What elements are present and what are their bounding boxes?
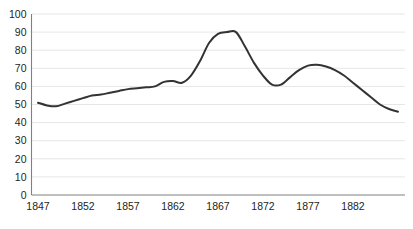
series-line [38,31,398,112]
x-tick-label: 1882 [341,200,365,212]
y-tick-label: 0 [21,189,27,201]
x-tick-label: 1852 [71,200,95,212]
y-axis-tick-labels: 0102030405060708090100 [9,8,27,201]
chart-canvas: 0102030405060708090100 18471852185718621… [0,0,413,229]
y-tick-label: 80 [15,44,27,56]
x-tick-label: 1877 [296,200,320,212]
y-tick-label: 10 [15,171,27,183]
y-tick-label: 20 [15,153,27,165]
y-tick-label: 100 [9,8,27,20]
x-tick-label: 1847 [26,200,50,212]
y-tick-label: 70 [15,62,27,74]
y-tick-label: 30 [15,134,27,146]
line-chart: 0102030405060708090100 18471852185718621… [0,0,413,229]
x-tick-label: 1872 [251,200,275,212]
x-tick-label: 1857 [116,200,140,212]
y-tick-label: 40 [15,116,27,128]
x-axis-tick-labels: 18471852185718621867187218771882 [26,200,365,212]
x-tick-label: 1862 [161,200,185,212]
gridlines [32,14,406,195]
y-tick-label: 50 [15,98,27,110]
data-series [38,31,398,112]
x-tick-label: 1867 [206,200,230,212]
y-tick-label: 90 [15,26,27,38]
y-tick-label: 60 [15,80,27,92]
